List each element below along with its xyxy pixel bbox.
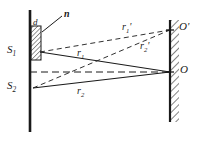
label-ray-r2-prime: r2': [140, 41, 149, 54]
screen-hatching: [170, 20, 179, 122]
solid-ray-r1: [40, 52, 170, 72]
optics-diagram-figure: n d S1 S2 r1 r2 r1' r2' O' O: [0, 0, 202, 143]
ray-r2-subscript: 2: [81, 91, 84, 98]
ray-r1-subscript: 1: [81, 53, 84, 60]
label-source-s1: S1: [7, 44, 16, 58]
ray-r2-prime-mark: ': [147, 40, 149, 51]
label-ray-r1: r1: [77, 48, 84, 61]
label-refractive-index-n: n: [64, 9, 70, 19]
point-o-prime-letter: O: [179, 20, 187, 32]
label-point-o: O: [180, 64, 188, 75]
dashed-ray-r2-prime: [33, 30, 170, 88]
label-point-o-prime: O': [179, 21, 189, 32]
point-o-prime-mark: ': [187, 20, 189, 32]
source-s2-subscript: 2: [13, 86, 17, 94]
leader-line-n: [42, 16, 62, 32]
dashed-ray-r1-prime: [40, 30, 170, 52]
label-ray-r1-prime: r1': [122, 22, 131, 35]
label-slab-thickness-d: d: [33, 18, 38, 27]
solid-ray-r2: [33, 72, 170, 88]
thin-film-slab: [31, 26, 41, 60]
diagram-canvas: [0, 0, 202, 143]
ray-r1-prime-mark: ': [129, 21, 131, 32]
label-source-s2: S2: [7, 80, 16, 94]
label-ray-r2: r2: [77, 86, 84, 99]
source-s1-subscript: 1: [13, 50, 17, 58]
